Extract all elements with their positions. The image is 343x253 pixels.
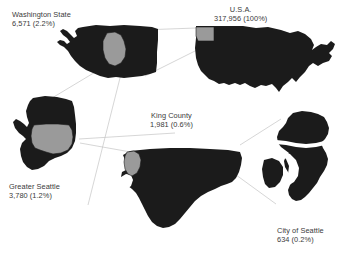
usa-washington-highlight (196, 27, 214, 41)
label-usa-value: 317,956 (100%) (214, 14, 267, 23)
label-king-county-name: King County (151, 111, 192, 120)
label-washington-state-name: Washington State (12, 10, 71, 19)
label-city-of-seattle-name: City of Seattle (277, 226, 324, 235)
leader-king-to-city-upper (240, 119, 281, 145)
label-washington-state-value: 6,571 (2.2%) (12, 19, 71, 28)
city-of-seattle-peninsula (262, 158, 283, 188)
map-greater-seattle (13, 96, 76, 170)
label-greater-seattle: Greater Seattle 3,780 (1.2%) (9, 182, 60, 201)
label-usa: U.S.A. 317,956 (100%) (214, 5, 267, 24)
label-greater-seattle-value: 3,780 (1.2%) (9, 191, 60, 200)
label-usa-name: U.S.A. (230, 5, 252, 14)
map-king-county (120, 148, 242, 228)
label-greater-seattle-name: Greater Seattle (9, 182, 60, 191)
map-usa (195, 26, 335, 92)
label-washington-state: Washington State 6,571 (2.2%) (12, 10, 71, 29)
label-city-of-seattle-value: 634 (0.2%) (277, 235, 324, 244)
label-city-of-seattle: City of Seattle 634 (0.2%) (277, 226, 324, 245)
label-king-county-value: 1,981 (0.6%) (150, 120, 193, 129)
label-king-county: King County 1,981 (0.6%) (150, 111, 193, 130)
map-washington-state (57, 25, 158, 78)
leader-greater-to-king-upper (79, 133, 175, 139)
nested-geography-figure: U.S.A. 317,956 (100%) Washington State 6… (0, 0, 343, 253)
usa-land-shape (195, 26, 335, 92)
